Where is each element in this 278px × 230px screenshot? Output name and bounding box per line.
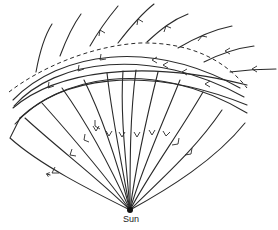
field-line bbox=[130, 92, 203, 210]
arched-field-lines bbox=[13, 57, 247, 124]
radial-field-lines bbox=[10, 70, 245, 210]
open-field-lines bbox=[36, 4, 276, 72]
sun-dot bbox=[127, 207, 133, 213]
field-line bbox=[25, 118, 130, 210]
dashed-boundary-arc bbox=[9, 43, 247, 92]
field-line-diagram bbox=[0, 0, 278, 230]
sun-label: Sun bbox=[118, 214, 144, 224]
